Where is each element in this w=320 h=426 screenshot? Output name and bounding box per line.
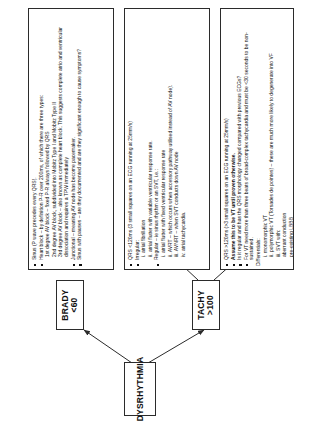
connector-root-tachy — [148, 330, 204, 363]
node-brady[interactable]: BRADY <60 — [56, 280, 84, 330]
list-item: QRS <120ms (3 small squares on an ECG ru… — [128, 12, 134, 266]
list-item: ii. polymorphic VT (Torsades de pointes)… — [269, 12, 275, 266]
list-item: i. atrial flutter with fixed ventricular… — [161, 12, 167, 266]
connector-root-brady — [84, 330, 132, 363]
list-item: 1st degree AV block – fixed P-R always f… — [45, 12, 51, 266]
panel-narrow-complex: QRS <120ms (3 small squares on an ECG ru… — [124, 8, 210, 270]
list-item: Sinus with pauses – are they documented … — [77, 12, 83, 266]
list-item: Differentials: — [256, 12, 262, 266]
list-item: QRS >120ms (>3 small squares on an ECG r… — [224, 12, 230, 266]
node-dysrhythmia-label: DYSRHYTHMIA — [136, 357, 145, 422]
list-item: 3rd degree AV block – also known as comp… — [58, 12, 69, 266]
list-item: Is it regular and has the QRS morphology… — [237, 12, 243, 266]
panel-brady: Sinus (P wave precedes every QRS). Heart… — [28, 8, 114, 270]
list-item: i. atrial fibrillation — [141, 12, 147, 266]
panel-broad-list: QRS >120ms (>3 small squares on an ECG r… — [224, 12, 280, 266]
node-tachy-label: TACHY >100 — [197, 281, 215, 329]
list-item: iii. SVT with: — [276, 12, 280, 266]
list-item: iii. AVNRT – when SVT conducts down AV n… — [174, 12, 180, 266]
panel-brady-list: Sinus (P wave precedes every QRS). Heart… — [32, 12, 83, 266]
list-item: Sinus (P wave precedes every QRS). — [32, 12, 38, 266]
node-dysrhythmia[interactable]: DYSRHYTHMIA — [124, 362, 156, 416]
panel-broad-complex: QRS >120ms (>3 small squares on an ECG r… — [220, 8, 280, 270]
diagram-canvas: DYSRHYTHMIA BRADY <60 TACHY >100 NARROW-… — [20, 0, 280, 426]
list-item: iv. atrial tachycardia. — [181, 12, 187, 266]
panel-narrow-list: QRS <120ms (3 small squares on an ECG ru… — [128, 12, 186, 266]
node-tachy[interactable]: TACHY >100 — [192, 280, 220, 330]
list-item: For VT need more than three beats of bro… — [244, 12, 255, 266]
node-brady-label: BRADY <60 — [61, 281, 79, 329]
